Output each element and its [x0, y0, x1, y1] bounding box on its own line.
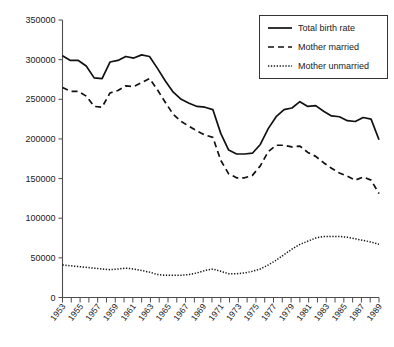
x-axis-tick-label: 1953 — [48, 301, 68, 322]
y-axis-tick-label: 50000 — [30, 253, 55, 263]
y-axis-tick-label: 150000 — [25, 174, 55, 184]
legend-label: Mother unmarried — [298, 61, 369, 71]
x-axis-tick-label: 1973 — [224, 301, 244, 322]
series-line-mother-married — [63, 79, 380, 194]
x-axis-tick-label: 1989 — [365, 301, 385, 322]
x-axis-tick-label: 1955 — [66, 301, 86, 322]
y-axis-tick-label: 300000 — [25, 55, 55, 65]
y-axis-tick-label: 250000 — [25, 94, 55, 104]
x-axis-tick-label: 1967 — [171, 301, 191, 322]
x-axis-tick-label: 1957 — [83, 301, 103, 322]
x-axis-tick-label: 1979 — [277, 301, 297, 322]
data-series-group — [63, 55, 380, 275]
x-axis-tick-label: 1971 — [206, 301, 226, 322]
series-line-mother-unmarried — [63, 236, 380, 275]
x-axis-tick-label: 1985 — [329, 301, 349, 322]
x-axis-tick-labels: 1953195519571959196119631965196719691971… — [48, 301, 384, 322]
line-chart: 3500003000002500002000001500001000005000… — [0, 0, 394, 347]
legend-label: Mother married — [298, 42, 359, 52]
y-axis-tick-label: 100000 — [25, 213, 55, 223]
y-axis-tick-label: 0 — [50, 293, 55, 303]
x-axis-tick-label: 1975 — [241, 301, 261, 322]
legend-label: Total birth rate — [298, 23, 355, 33]
chart-container: 3500003000002500002000001500001000005000… — [0, 0, 394, 347]
x-axis-tick-label: 1981 — [294, 301, 314, 322]
x-axis-tick-marks — [63, 298, 380, 303]
x-axis-tick-label: 1987 — [347, 301, 367, 322]
y-axis-tick-label: 350000 — [25, 15, 55, 25]
x-axis-tick-label: 1961 — [118, 301, 138, 322]
x-axis-tick-label: 1963 — [136, 301, 156, 322]
chart-legend: Total birth rateMother marriedMother unm… — [260, 16, 388, 79]
y-axis-tick-labels: 3500003000002500002000001500001000005000… — [25, 15, 55, 303]
y-axis-tick-marks — [59, 20, 63, 298]
y-axis-tick-label: 200000 — [25, 134, 55, 144]
x-axis-tick-label: 1977 — [259, 301, 279, 322]
x-axis-tick-label: 1959 — [101, 301, 121, 322]
x-axis-tick-label: 1983 — [312, 301, 332, 322]
x-axis-tick-label: 1969 — [189, 301, 209, 322]
x-axis-tick-label: 1965 — [154, 301, 174, 322]
